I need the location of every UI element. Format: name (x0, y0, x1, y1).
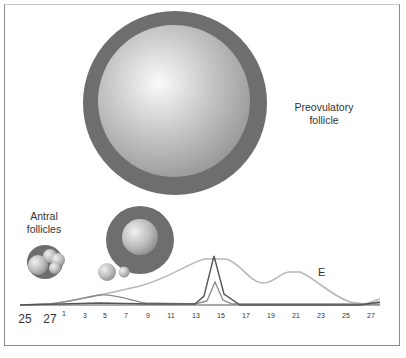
tick-label: 27 (43, 312, 57, 326)
antrum (122, 219, 158, 255)
antrum (98, 25, 250, 177)
tick-label: 15 (217, 312, 225, 319)
tick-label: 21 (292, 312, 300, 319)
antral-label-line2: follicles (27, 223, 61, 235)
tick-label: 25 (342, 312, 350, 319)
antral-label-line1: Antral (30, 210, 57, 222)
tick-label: 5 (103, 312, 107, 319)
preovulatory-label-line2: follicle (309, 114, 338, 126)
preovulatory-label-line1: Preovulatory (295, 101, 355, 113)
tick-label: 23 (317, 312, 325, 319)
tick-label: 9 (146, 312, 150, 319)
estrogen-curve (20, 259, 380, 305)
tick-label: 19 (267, 312, 275, 319)
tick-label: 11 (167, 312, 174, 319)
preovulatory-follicle (83, 11, 267, 195)
tick-label: 17 (242, 312, 250, 319)
fsh-curve (20, 282, 380, 305)
tick-label: 1 (62, 310, 66, 317)
follicle-cycle-diagram: Preovulatory follicle Antral follicles E… (0, 0, 406, 358)
tick-label: 7 (124, 312, 128, 319)
tick-label: 27 (367, 312, 375, 319)
growing-follicle (98, 206, 174, 281)
small-follicle (98, 263, 116, 281)
tick-label: 3 (83, 312, 87, 319)
estrogen-label: E (318, 266, 325, 278)
tick-label: 25 (18, 312, 32, 326)
small-follicle (119, 267, 130, 278)
x-axis-cycle-days: 1 3 5 7 9 11 13 15 17 19 21 23 25 27 (62, 310, 375, 319)
lh-curve (20, 256, 380, 305)
antral-follicle-cluster (27, 245, 65, 279)
x-axis-prev-cycle: 25 27 (18, 312, 57, 326)
tick-label: 13 (192, 312, 200, 319)
